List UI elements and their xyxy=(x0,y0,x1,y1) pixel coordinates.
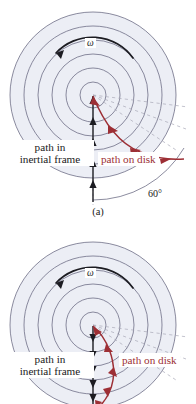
omega-label-a: ω xyxy=(85,38,96,48)
inertial-frame-label-a: path in inertial frame xyxy=(6,140,94,166)
figure-caption-a: (a) xyxy=(0,206,196,217)
figure-panel-b: ω path in inertial frame path on disk xyxy=(0,222,196,404)
inertial-frame-label-line1: path in xyxy=(35,353,66,365)
figure-a-stage: ω path in inertial frame path on disk 60… xyxy=(0,0,196,220)
inertial-arrowhead-5 xyxy=(89,180,96,188)
figure-panel-a: ω path in inertial frame path on disk 60… xyxy=(0,0,196,220)
disk-arrowhead-4 xyxy=(160,159,171,164)
inertial-frame-label-line2: inertial frame xyxy=(20,153,81,165)
figure-b-stage: ω path in inertial frame path on disk xyxy=(0,222,196,404)
inertial-frame-label-b: path in inertial frame xyxy=(6,352,94,378)
inertial-frame-label-line2: inertial frame xyxy=(20,365,81,377)
inertial-frame-label-line1: path in xyxy=(35,141,66,153)
angle-label-60: 60° xyxy=(148,189,162,200)
path-on-disk-label-b: path on disk xyxy=(119,353,180,367)
figure-a-diagram xyxy=(0,0,196,220)
omega-label-b: ω xyxy=(85,268,96,278)
path-on-disk-label-a: path on disk xyxy=(98,152,159,166)
